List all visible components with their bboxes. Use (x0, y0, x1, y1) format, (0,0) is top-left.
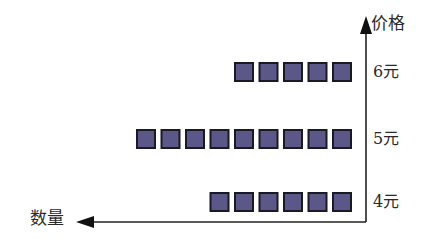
y-axis-label: 价格 (371, 15, 405, 32)
tick-label-4: 4元 (373, 194, 399, 210)
unit-square-icon (260, 130, 278, 148)
unit-square-icon (284, 63, 302, 81)
unit-square-icon (186, 130, 204, 148)
x-axis-arrow-icon (76, 216, 94, 228)
chart-canvas (0, 0, 430, 248)
unit-square-icon (211, 193, 229, 211)
unit-square-icon (162, 130, 180, 148)
unit-square-icon (211, 130, 229, 148)
unit-square-icon (309, 193, 327, 211)
unit-square-icon (235, 130, 253, 148)
unit-square-icon (235, 193, 253, 211)
unit-square-icon (260, 193, 278, 211)
unit-square-icon (284, 130, 302, 148)
unit-square-icon (333, 193, 351, 211)
unit-square-icon (260, 63, 278, 81)
unit-square-icon (309, 130, 327, 148)
tick-label-6: 6元 (373, 64, 399, 80)
unit-square-icon (333, 63, 351, 81)
unit-square-icon (333, 130, 351, 148)
x-axis-label: 数量 (30, 210, 64, 227)
tick-label-5: 5元 (373, 131, 399, 147)
unit-square-icon (137, 130, 155, 148)
rows-group (137, 63, 351, 211)
unit-square-icon (309, 63, 327, 81)
unit-square-icon (235, 63, 253, 81)
unit-square-icon (284, 193, 302, 211)
